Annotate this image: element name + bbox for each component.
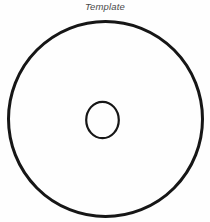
template-drawing (0, 0, 210, 222)
inner-circle (86, 102, 119, 138)
outer-circle (9, 22, 203, 217)
template-figure: Template (0, 0, 210, 222)
